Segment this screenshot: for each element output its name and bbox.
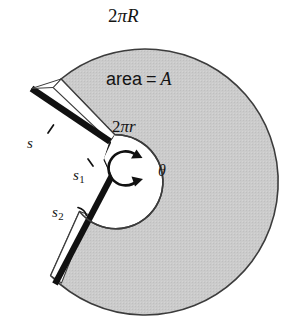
outer-circumference-number: 2 (108, 5, 118, 26)
arc-s2-subscript: 2 (58, 210, 64, 222)
leader-tick-s1 (88, 159, 93, 166)
annulus-diagram-svg (0, 0, 291, 326)
label-arc-s2: s2 (52, 205, 64, 222)
leader-tick-s (48, 125, 54, 133)
inner-circumference-variable: r (129, 117, 136, 136)
outer-circumference-variable: R (127, 5, 139, 26)
label-outer-circumference: 2πR (108, 6, 139, 25)
label-theta-angle: θ (158, 163, 166, 179)
label-inner-circumference: 2πr (112, 118, 136, 135)
area-word: area (106, 69, 142, 89)
arc-s1-variable: s (73, 167, 79, 183)
label-area: area=A (106, 70, 172, 88)
arc-s1-subscript: 1 (79, 173, 85, 185)
figure-container: 2πR area=A 2πr θ s s1 s2 (0, 0, 291, 326)
inner-circumference-number: 2 (112, 117, 121, 136)
label-arc-s: s (27, 136, 33, 151)
leader-lines-group (48, 125, 93, 216)
label-arc-s1: s1 (73, 168, 85, 185)
inner-circumference-pi: π (121, 117, 130, 136)
arc-s2-variable: s (52, 204, 58, 220)
area-equals-sign: = (142, 69, 161, 89)
outer-circumference-pi: π (118, 5, 128, 26)
area-variable: A (161, 69, 172, 89)
